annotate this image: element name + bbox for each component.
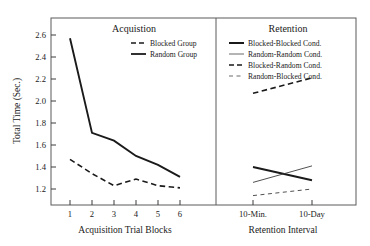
right-x-axis-title: Retention Interval (249, 225, 318, 235)
y-axis: 1.2 1.4 1.6 1.8 2.0 2.2 2.4 2.6 Total Ti… (12, 30, 56, 194)
right-legend: Blocked-Blocked Cond. Random-Random Cond… (229, 39, 322, 81)
x-tick-label: 4 (134, 209, 139, 219)
series-line-blocked-blocked-cond (253, 167, 312, 180)
right-panel-title: Retention (269, 23, 308, 34)
series-line-random-blocked-cond (253, 189, 312, 196)
y-tick-label: 2.6 (35, 30, 46, 40)
y-tick-label: 1.8 (35, 118, 46, 128)
y-tick-label: 2.4 (35, 52, 46, 62)
x-tick-label: 2 (90, 209, 94, 219)
legend-label-blocked-group: Blocked Group (150, 39, 197, 48)
y-tick-group (51, 35, 56, 189)
y-tick-label: 2.2 (35, 74, 46, 84)
x-tick-label: 5 (156, 209, 160, 219)
y-tick-label: 2.0 (35, 96, 46, 106)
legend-label-blocked-random: Blocked-Random Cond. (248, 61, 322, 70)
left-legend: Blocked Group Random Group (131, 39, 197, 59)
left-panel-header: Acquistion Blocked Group Random Group (112, 23, 197, 59)
series-line-blocked-group (70, 159, 180, 188)
right-panel-header: Retention Blocked-Blocked Cond. Random-R… (229, 23, 322, 81)
legend-label-random-random: Random-Random Cond. (248, 50, 322, 59)
y-axis-title: Total Time (Sec.) (12, 78, 23, 144)
left-panel-title: Acquistion (112, 23, 156, 34)
left-x-axis-title: Acquisition Trial Blocks (78, 225, 172, 235)
x-tick-label: 10-Day (299, 209, 325, 219)
x-tick-label: 3 (112, 209, 116, 219)
y-tick-label: 1.4 (35, 162, 46, 172)
legend-label-blocked-blocked: Blocked-Blocked Cond. (248, 39, 321, 48)
y-tick-label: 1.2 (35, 184, 46, 194)
y-tick-label: 1.6 (35, 140, 46, 150)
series-line-random-group (70, 38, 180, 177)
x-tick-label: 1 (68, 209, 72, 219)
chart-svg: 1.2 1.4 1.6 1.8 2.0 2.2 2.4 2.6 Total Ti… (0, 0, 370, 246)
legend-label-random-blocked: Random-Blocked Cond. (248, 72, 322, 81)
legend-label-random-group: Random Group (150, 50, 197, 59)
x-tick-label: 10-Min. (239, 209, 267, 219)
x-tick-label: 6 (178, 209, 183, 219)
figure-container: 1.2 1.4 1.6 1.8 2.0 2.2 2.4 2.6 Total Ti… (0, 0, 370, 246)
